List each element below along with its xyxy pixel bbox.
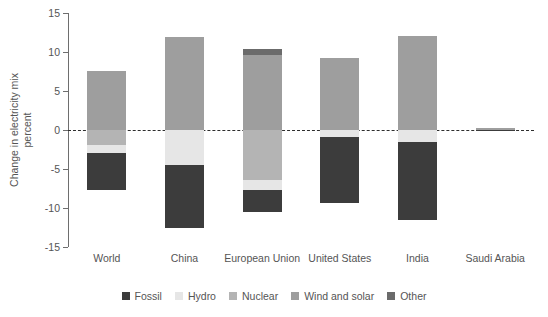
bar-segment <box>165 130 204 165</box>
bar-segment <box>476 128 515 130</box>
bar-series-group <box>68 13 534 247</box>
bar-segment <box>87 71 126 130</box>
bar-group <box>476 13 515 247</box>
legend-swatch-icon <box>229 292 237 300</box>
legend-swatch-icon <box>175 292 183 300</box>
bar-segment <box>243 180 282 190</box>
bar-segment <box>320 137 359 203</box>
bar-segment <box>243 190 282 212</box>
y-axis-title-line2: percent <box>21 73 34 187</box>
bar-segment <box>476 130 515 131</box>
bar-segment <box>320 58 359 130</box>
legend-swatch-icon <box>291 292 299 300</box>
chart-figure: Change in electricity mix percent 151050… <box>0 0 548 317</box>
x-axis-label: China <box>146 252 224 265</box>
bar-group <box>243 13 282 247</box>
legend-item-wind-and-solar[interactable]: Wind and solar <box>291 290 374 302</box>
x-axis-label: India <box>379 252 457 265</box>
y-tick-label: 15 <box>48 7 60 19</box>
legend-swatch-icon <box>387 292 395 300</box>
x-axis-label: United States <box>301 252 379 265</box>
y-tick-label: 0 <box>54 124 60 136</box>
bar-segment <box>398 142 437 219</box>
x-axis-label: Saudi Arabia <box>456 252 534 265</box>
bar-segment <box>243 130 282 180</box>
x-axis-label: World <box>68 252 146 265</box>
y-tick-mark <box>63 247 68 248</box>
bar-group <box>320 13 359 247</box>
x-axis-label: European Union <box>223 252 301 265</box>
bar-segment <box>165 165 204 228</box>
y-tick-label: 5 <box>54 85 60 97</box>
bar-segment <box>398 36 437 130</box>
legend-label: Fossil <box>135 290 162 302</box>
legend-item-hydro[interactable]: Hydro <box>175 290 216 302</box>
bar-segment <box>87 145 126 153</box>
legend-label: Nuclear <box>242 290 278 302</box>
bar-segment <box>398 130 437 142</box>
bar-segment <box>87 153 126 190</box>
bar-group <box>165 13 204 247</box>
y-tick-label: 10 <box>48 46 60 58</box>
y-tick-label: -15 <box>45 241 60 253</box>
bar-group <box>398 13 437 247</box>
bar-segment <box>165 37 204 130</box>
legend-label: Hydro <box>188 290 216 302</box>
y-axis-title: Change in electricity mix percent <box>4 0 38 260</box>
y-tick-label: -10 <box>45 202 60 214</box>
chart-legend: FossilHydroNuclearWind and solarOther <box>0 290 548 302</box>
legend-item-nuclear[interactable]: Nuclear <box>229 290 278 302</box>
bar-segment <box>320 130 359 137</box>
y-axis-title-line1: Change in electricity mix <box>8 73 20 187</box>
y-tick-label: -5 <box>51 163 60 175</box>
bar-segment <box>243 55 282 130</box>
legend-label: Wind and solar <box>304 290 374 302</box>
bar-segment <box>243 49 282 55</box>
legend-item-other[interactable]: Other <box>387 290 426 302</box>
legend-swatch-icon <box>122 292 130 300</box>
plot-area: 151050-5-10-15 <box>68 13 534 247</box>
x-axis-labels: WorldChinaEuropean UnionUnited StatesInd… <box>68 252 534 286</box>
bar-segment <box>87 130 126 145</box>
legend-item-fossil[interactable]: Fossil <box>122 290 162 302</box>
bar-group <box>87 13 126 247</box>
legend-label: Other <box>400 290 426 302</box>
